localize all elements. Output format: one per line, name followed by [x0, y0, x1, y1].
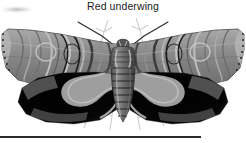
figure-caption: Red underwing — [0, 1, 246, 12]
horizontal-rule — [0, 136, 201, 138]
figure-plate: Red underwing — [0, 0, 246, 143]
thorax — [110, 46, 136, 68]
moth-illustration — [0, 12, 246, 131]
abdomen — [111, 68, 135, 122]
